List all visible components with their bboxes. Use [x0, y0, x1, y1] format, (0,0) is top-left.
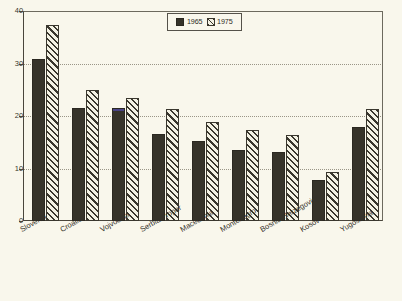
bar-yugoslavia-1975[interactable] [366, 109, 379, 221]
legend-label: 1965 [187, 18, 203, 25]
bar-group [232, 11, 259, 221]
bar-group [112, 11, 139, 221]
y-axis: 010203040 [0, 0, 23, 301]
legend-entry-1975[interactable]: 1975 [207, 18, 233, 26]
bar-group [152, 11, 179, 221]
bar-group [32, 11, 59, 221]
bar-croatia-1965[interactable] [72, 108, 85, 221]
hatched-square-icon [207, 18, 215, 26]
legend[interactable]: 19651975 [167, 13, 242, 31]
bar-macedonia-1965[interactable] [192, 141, 205, 221]
bar-group [72, 11, 99, 221]
y-tick-mark [19, 221, 23, 222]
bar-montenegro-1965[interactable] [232, 150, 245, 221]
bar-slovenia-1975[interactable] [46, 25, 59, 221]
bar-group [272, 11, 299, 221]
solid-square-icon [176, 18, 184, 26]
bar-group [352, 11, 379, 221]
bar-group [192, 11, 219, 221]
bar-serbia-proper-1965[interactable] [152, 134, 165, 221]
bar-chart: 010203040 SloveniaCroatiaVojvodinaSerbia… [0, 0, 402, 301]
bar-vojvodina-1965-blue-cap[interactable] [112, 108, 125, 221]
bar-slovenia-1965[interactable] [32, 59, 45, 221]
bar-croatia-1975[interactable] [86, 90, 99, 221]
bars-layer [23, 11, 383, 221]
bar-group [312, 11, 339, 221]
bar-kosovo-1975[interactable] [326, 172, 339, 221]
bar-vojvodina-1975[interactable] [126, 98, 139, 221]
bar-macedonia-1975[interactable] [206, 122, 219, 221]
bar-yugoslavia-1965[interactable] [352, 127, 365, 221]
bar-bosnia-herzegovina-1965[interactable] [272, 152, 285, 221]
legend-entry-1965[interactable]: 1965 [176, 18, 202, 26]
legend-label: 1975 [217, 18, 233, 25]
